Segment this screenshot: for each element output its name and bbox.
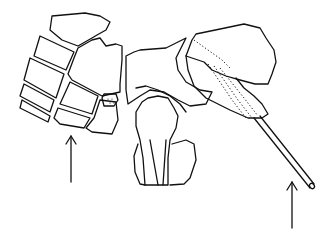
right-arrow bbox=[287, 182, 297, 228]
column-inner-left bbox=[150, 140, 158, 185]
dot bbox=[107, 98, 108, 99]
anatomical-line-drawing bbox=[0, 0, 330, 237]
pin bbox=[254, 116, 314, 188]
dot bbox=[113, 102, 114, 103]
bone-ridge bbox=[136, 86, 186, 112]
bone-block-upper bbox=[68, 38, 122, 96]
side-bone-right bbox=[170, 140, 196, 185]
dot bbox=[109, 102, 110, 103]
dotted-channel-2 bbox=[208, 64, 246, 118]
bone-top-left bbox=[50, 13, 110, 46]
bone-block-lower-right bbox=[86, 100, 118, 134]
bone-block-3 bbox=[20, 84, 54, 112]
bone-block-mid bbox=[60, 82, 98, 114]
bone-block-2 bbox=[24, 58, 64, 98]
left-arrow bbox=[66, 136, 76, 182]
dotted-channel-1 bbox=[194, 40, 230, 68]
dot bbox=[111, 98, 112, 99]
right-bone-head bbox=[186, 24, 276, 84]
column-inner-right bbox=[163, 140, 166, 185]
bone-block-lower bbox=[54, 108, 90, 128]
central-column bbox=[136, 96, 178, 185]
bone-block-1 bbox=[34, 36, 74, 70]
